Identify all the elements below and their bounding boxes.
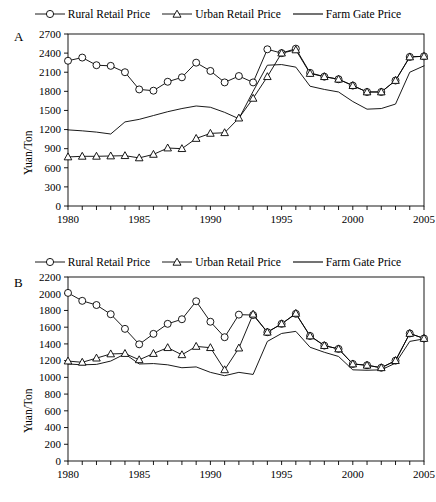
data-point-marker [121, 152, 129, 159]
y-tick-label: 1800 [39, 85, 62, 97]
x-tick-label: 1995 [271, 468, 294, 480]
series-line-0 [68, 49, 424, 92]
y-tick-label: 2200 [39, 271, 62, 283]
x-tick-label: 2005 [413, 468, 436, 480]
y-tick-label: 900 [45, 142, 62, 154]
data-point-marker [79, 297, 86, 304]
data-point-marker [93, 302, 100, 309]
y-tick-label: 600 [45, 162, 62, 174]
x-tick-label: 2005 [413, 213, 436, 225]
data-point-marker [107, 62, 114, 69]
data-point-marker [164, 144, 172, 151]
data-point-marker [121, 325, 128, 332]
chart-panel-b: Rural Retail Price Urban Retail Price Fa… [0, 248, 436, 502]
data-point-marker [150, 87, 157, 94]
y-tick-label: 1000 [39, 371, 62, 383]
data-point-marker [178, 316, 185, 323]
y-tick-label: 1600 [39, 321, 62, 333]
data-point-marker [107, 152, 115, 159]
plot-area-b: 0200400600800100012001400160018002000220… [0, 248, 436, 502]
figure-container: Rural Retail Price Urban Retail Price Fa… [0, 0, 436, 502]
chart-panel-a: Rural Retail Price Urban Retail Price Fa… [0, 0, 436, 248]
data-point-marker [178, 351, 186, 358]
data-point-marker [164, 78, 171, 85]
y-tick-label: 1400 [39, 338, 62, 350]
x-tick-label: 1985 [128, 213, 151, 225]
data-point-marker [264, 73, 272, 80]
data-point-marker [65, 289, 72, 296]
x-tick-label: 1990 [199, 213, 222, 225]
y-tick-label: 600 [45, 405, 62, 417]
data-point-marker [107, 350, 115, 357]
data-point-marker [150, 330, 157, 337]
y-tick-label: 2000 [39, 288, 62, 300]
data-point-marker [207, 318, 214, 325]
y-tick-label: 1800 [39, 304, 62, 316]
y-tick-label: 1200 [39, 123, 62, 135]
data-point-marker [221, 366, 229, 373]
data-point-marker [164, 344, 172, 351]
data-point-marker [192, 342, 200, 349]
plot-frame [68, 277, 424, 461]
data-point-marker [93, 152, 101, 159]
data-point-marker [249, 94, 257, 101]
data-point-marker [136, 341, 143, 348]
data-point-marker [221, 334, 228, 341]
x-tick-label: 1990 [199, 468, 222, 480]
data-point-marker [264, 46, 271, 53]
y-tick-label: 2100 [39, 66, 62, 78]
series-line-1 [68, 50, 424, 158]
series-line-2 [68, 65, 424, 134]
plot-area-a: 0300600900120015001800210024002700198019… [0, 0, 436, 248]
y-tick-label: 200 [45, 438, 62, 450]
data-point-marker [107, 311, 114, 318]
y-tick-label: 2400 [39, 47, 62, 59]
data-point-marker [65, 57, 72, 64]
data-point-marker [250, 79, 257, 86]
data-point-marker [150, 150, 158, 157]
y-tick-label: 800 [45, 388, 62, 400]
y-tick-label: 300 [45, 181, 62, 193]
data-point-marker [235, 311, 242, 318]
data-point-marker [178, 74, 185, 81]
x-tick-label: 1980 [57, 213, 80, 225]
data-point-marker [135, 356, 143, 363]
plot-frame [68, 34, 424, 206]
data-point-marker [193, 59, 200, 66]
data-point-marker [121, 350, 129, 357]
series-line-1 [68, 313, 424, 369]
data-point-marker [164, 320, 171, 327]
data-point-marker [121, 69, 128, 76]
x-tick-label: 1980 [57, 468, 80, 480]
y-tick-label: 0 [56, 455, 62, 467]
data-point-marker [136, 86, 143, 93]
data-point-marker [193, 298, 200, 305]
data-point-marker [93, 62, 100, 69]
data-point-marker [207, 67, 214, 74]
x-tick-label: 2000 [342, 213, 365, 225]
x-tick-label: 2000 [342, 468, 365, 480]
y-tick-label: 2700 [39, 28, 62, 40]
x-tick-label: 1995 [271, 213, 294, 225]
data-point-marker [78, 152, 86, 159]
data-point-marker [221, 79, 228, 86]
y-tick-label: 400 [45, 421, 62, 433]
data-point-marker [79, 54, 86, 61]
data-point-marker [235, 344, 243, 351]
x-tick-label: 1985 [128, 468, 151, 480]
data-point-marker [150, 350, 158, 357]
y-tick-label: 1200 [39, 354, 62, 366]
y-tick-label: 0 [56, 200, 62, 212]
data-point-marker [235, 73, 242, 80]
y-tick-label: 1500 [39, 104, 62, 116]
